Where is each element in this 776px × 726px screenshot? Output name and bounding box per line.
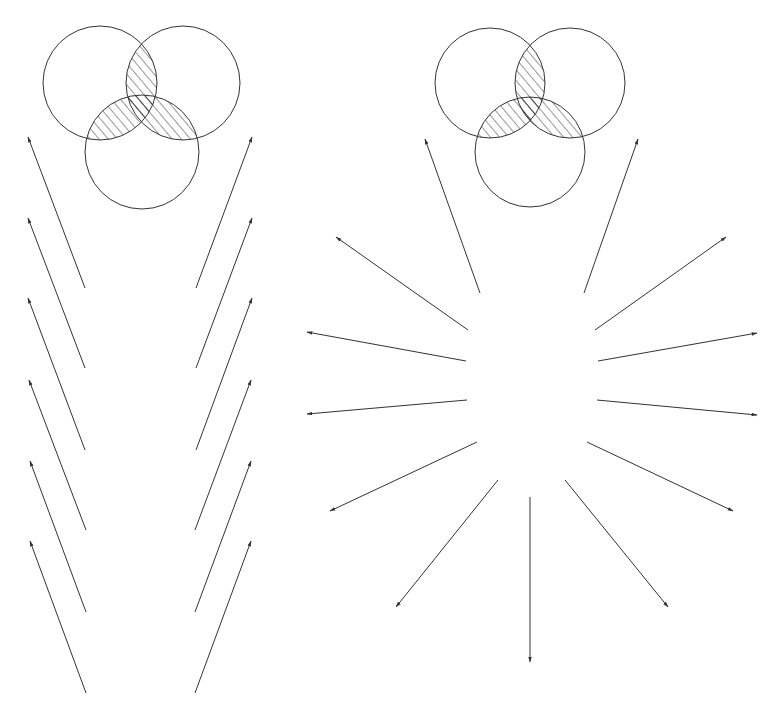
arrow	[28, 218, 85, 368]
arrow	[196, 218, 252, 368]
arrow	[195, 380, 251, 530]
arrow	[30, 461, 86, 612]
arrow	[330, 442, 477, 511]
arrow	[28, 137, 85, 288]
arrow	[307, 400, 467, 414]
arrow	[597, 400, 757, 415]
diagram-canvas	[0, 0, 776, 726]
left-venn-diagram	[43, 26, 240, 209]
arrow	[565, 480, 668, 607]
arrow	[195, 541, 251, 693]
arrow	[584, 139, 638, 293]
arrow	[396, 480, 498, 607]
arrow	[29, 380, 86, 530]
arrow	[307, 332, 466, 361]
arrow	[195, 461, 251, 612]
arrow	[30, 541, 86, 693]
parallel-arrows-left-group	[28, 137, 86, 693]
arrow	[196, 137, 252, 288]
arrow	[196, 298, 252, 450]
right-venn-diagram	[435, 28, 625, 207]
arrow	[425, 139, 480, 293]
arrow	[28, 298, 85, 450]
parallel-arrows-right-group	[195, 137, 252, 693]
arrow	[595, 237, 726, 330]
arrow	[598, 333, 757, 361]
radial-arrows-group	[307, 139, 757, 662]
arrow	[587, 442, 733, 511]
arrow	[336, 237, 468, 330]
